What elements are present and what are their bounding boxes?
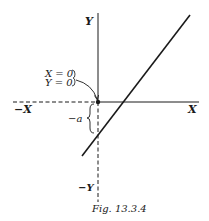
- figure-caption: Fig. 13.3.4: [91, 203, 147, 214]
- y-negative-label: −Y: [78, 182, 94, 193]
- origin-pointer-arrow: [76, 80, 97, 99]
- x-negative-label: −X: [14, 103, 32, 116]
- intercept-brace: [87, 104, 94, 133]
- x-positive-label: X: [187, 103, 197, 116]
- origin-point: [96, 100, 100, 104]
- origin-label-y: Y = 0: [45, 77, 73, 88]
- intercept-label: −a: [68, 113, 82, 124]
- y-positive-label: Y: [85, 15, 94, 28]
- figure-canvas: Y X −X −Y X = 0 Y = 0 −a Fig. 13.3.4: [0, 0, 209, 221]
